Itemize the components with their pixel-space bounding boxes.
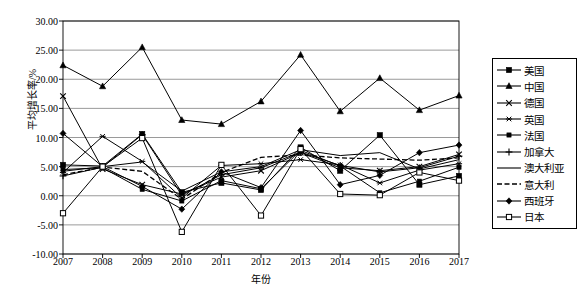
data-point-marker xyxy=(506,68,511,73)
data-point-marker xyxy=(60,173,67,180)
series-1 xyxy=(60,44,462,127)
data-point-marker xyxy=(377,75,383,81)
data-point-marker xyxy=(457,165,461,169)
data-point-marker xyxy=(506,117,512,122)
chart-container: 平均增长率/% 30.0025.0020.0015.0010.005.000.0… xyxy=(0,0,583,292)
data-point-marker xyxy=(377,193,382,198)
legend-label: 英国 xyxy=(522,112,544,127)
data-point-marker xyxy=(60,211,65,216)
legend-label: 德国 xyxy=(522,95,544,110)
data-point-marker xyxy=(298,51,304,57)
data-point-marker xyxy=(506,148,513,155)
data-point-marker xyxy=(506,197,512,203)
data-point-marker xyxy=(507,133,511,137)
data-point-marker xyxy=(100,164,105,169)
data-point-marker xyxy=(100,134,106,139)
data-point-marker xyxy=(139,44,145,50)
data-point-marker xyxy=(417,179,421,183)
legend-item-美国[interactable]: 美国 xyxy=(496,62,572,78)
legend-label: 西班牙 xyxy=(522,193,554,208)
data-point-marker xyxy=(258,213,263,218)
legend-label: 美国 xyxy=(522,63,544,78)
legend-label: 日本 xyxy=(522,209,544,224)
data-point-marker xyxy=(456,142,462,148)
legend-label: 加拿大 xyxy=(522,144,554,159)
data-point-marker xyxy=(179,229,184,234)
data-point-marker xyxy=(179,117,185,123)
legend-label: 意大利 xyxy=(522,177,554,192)
data-point-marker xyxy=(456,178,461,183)
data-point-marker xyxy=(60,162,65,167)
legend-marker-icon xyxy=(496,128,522,142)
data-point-marker xyxy=(377,133,382,138)
data-point-marker xyxy=(338,191,343,196)
legend-marker-icon xyxy=(496,63,522,77)
legend-marker-icon xyxy=(496,145,522,159)
legend-marker-icon xyxy=(496,96,522,110)
data-point-marker xyxy=(298,147,303,152)
legend-item-英国[interactable]: 英国 xyxy=(496,111,572,127)
series-2 xyxy=(60,93,462,196)
data-point-marker xyxy=(417,170,422,175)
data-point-marker xyxy=(219,162,224,167)
series-line xyxy=(63,96,459,194)
legend-marker-icon xyxy=(496,79,522,93)
legend-marker-icon xyxy=(496,210,522,224)
legend-item-加拿大[interactable]: 加拿大 xyxy=(496,143,572,159)
chart-legend: 美国中国德国英国法国加拿大澳大利亚意大利西班牙日本 xyxy=(492,58,577,229)
legend-marker-icon xyxy=(496,177,522,191)
data-point-marker xyxy=(219,179,223,183)
data-point-marker xyxy=(456,92,462,98)
data-point-marker xyxy=(140,135,145,140)
legend-item-德国[interactable]: 德国 xyxy=(496,95,572,111)
legend-item-中国[interactable]: 中国 xyxy=(496,78,572,94)
legend-item-日本[interactable]: 日本 xyxy=(496,209,572,225)
data-point-marker xyxy=(377,181,383,186)
legend-item-意大利[interactable]: 意大利 xyxy=(496,176,572,192)
data-point-marker xyxy=(60,62,66,68)
data-point-marker xyxy=(416,149,422,155)
legend-marker-icon xyxy=(496,161,522,175)
legend-item-法国[interactable]: 法国 xyxy=(496,127,572,143)
legend-marker-icon xyxy=(496,194,522,208)
legend-marker-icon xyxy=(496,112,522,126)
legend-label: 法国 xyxy=(522,128,544,143)
legend-label: 中国 xyxy=(522,79,544,94)
legend-item-澳大利亚[interactable]: 澳大利亚 xyxy=(496,160,572,176)
data-point-marker xyxy=(506,214,511,219)
legend-item-西班牙[interactable]: 西班牙 xyxy=(496,192,572,208)
series-line xyxy=(63,47,459,124)
legend-label: 澳大利亚 xyxy=(522,160,564,175)
data-point-marker xyxy=(298,157,304,162)
